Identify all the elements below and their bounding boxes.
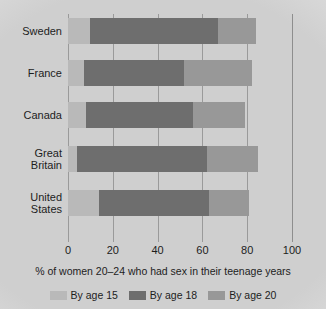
category-axis-labels: SwedenFranceCanadaGreatBritainUnitedStat… (0, 14, 62, 242)
category-label: Canada (0, 109, 62, 122)
bar-row (68, 18, 292, 44)
bar-segment (68, 146, 77, 172)
x-tick-label: 40 (143, 244, 173, 256)
legend-label: By age 18 (150, 289, 197, 301)
legend: By age 15By age 18By age 20 (0, 289, 326, 301)
x-axis-tick-labels: 020406080100 (0, 244, 326, 260)
legend-swatch (129, 291, 146, 300)
category-label: France (0, 67, 62, 80)
bar-row (68, 190, 292, 216)
x-tick-label: 20 (98, 244, 128, 256)
x-tick-label: 80 (232, 244, 262, 256)
chart-screenshot: SwedenFranceCanadaGreatBritainUnitedStat… (0, 0, 326, 309)
category-label: Sweden (0, 25, 62, 38)
legend-swatch (208, 291, 225, 300)
bar-row (68, 102, 292, 128)
category-label-line: Sweden (0, 25, 62, 38)
legend-label: By age 15 (71, 289, 118, 301)
bar-segment (68, 60, 84, 86)
x-tick-label: 100 (277, 244, 307, 256)
category-label-line: Canada (0, 109, 62, 122)
category-label: UnitedStates (0, 191, 62, 216)
bar-row (68, 60, 292, 86)
bar-segment (68, 190, 99, 216)
gridline-100 (292, 14, 293, 242)
category-label-line: Great (0, 147, 62, 160)
bar-segment (68, 146, 207, 172)
x-tick-label: 60 (187, 244, 217, 256)
category-label-line: Britain (0, 159, 62, 172)
legend-label: By age 20 (229, 289, 276, 301)
x-axis-label: % of women 20–24 who had sex in their te… (0, 265, 326, 277)
bar-row (68, 146, 292, 172)
bar-segment (68, 18, 218, 44)
legend-swatch (50, 291, 67, 300)
bar-segment (68, 60, 184, 86)
bar-segment (68, 102, 193, 128)
category-label-line: France (0, 67, 62, 80)
bar-segment (68, 18, 90, 44)
bar-segment (68, 102, 86, 128)
category-label-line: United (0, 191, 62, 204)
category-label: GreatBritain (0, 147, 62, 172)
legend-item: By age 15 (50, 289, 118, 301)
x-tick-label: 0 (53, 244, 83, 256)
plot-area (68, 14, 292, 242)
legend-item: By age 18 (129, 289, 197, 301)
legend-item: By age 20 (208, 289, 276, 301)
category-label-line: States (0, 203, 62, 216)
